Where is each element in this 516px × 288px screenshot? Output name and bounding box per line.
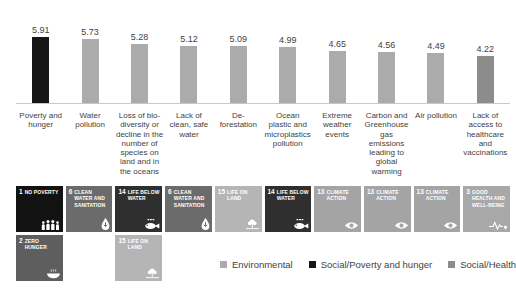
badge-head: 13CLIMATE ACTION: [417, 189, 459, 202]
badge-title: LIFE ON LAND: [227, 189, 259, 202]
badge-head: 3GOOD HEALTH AND WELL-BEING: [466, 189, 508, 209]
water-drop-icon: [101, 218, 110, 230]
badge-head: 13CLIMATE ACTION: [367, 189, 409, 202]
bar-value-label: 5.28: [131, 32, 149, 42]
bar-chart: 5.91 5.73 5.28 5.12 5.09 4.99 4.65 4.56 …: [16, 0, 510, 104]
tree-icon: [245, 219, 260, 230]
fish-icon: [292, 219, 309, 230]
bar-value-label: 4.22: [477, 44, 495, 54]
badge-number: 3: [466, 189, 470, 209]
badge-title: CLEAN WATER AND SANITATION: [74, 189, 110, 209]
bar-column: 4.65: [312, 39, 361, 103]
legend-label: Social/Poverty and hunger: [321, 259, 432, 270]
badge-title: ZERO HUNGER: [25, 238, 61, 251]
sdg-badge-life-on-land: 15LIFE ON LAND: [215, 186, 262, 232]
bar-value-label: 5.12: [180, 34, 198, 44]
legend-item-environmental: Environmental: [220, 259, 293, 270]
badge-head: 14LIFE BELOW WATER: [268, 189, 310, 202]
bar-value-label: 4.65: [328, 39, 346, 49]
badge-number: 6: [69, 189, 73, 209]
bar: [329, 51, 346, 103]
bar: [230, 46, 247, 103]
badge-number: 13: [367, 189, 374, 202]
eye-globe-icon: [394, 221, 409, 230]
chart-area: 5.91 5.73 5.28 5.12 5.09 4.99 4.65 4.56 …: [16, 0, 510, 179]
badge-number: 15: [118, 238, 125, 251]
eye-globe-icon: [443, 221, 458, 230]
badge-head: 6CLEAN WATER AND SANITATION: [69, 189, 111, 209]
legend-swatch-environmental: [220, 261, 227, 268]
survey-bar-chart-figure: 5.91 5.73 5.28 5.12 5.09 4.99 4.65 4.56 …: [0, 0, 516, 288]
badge-number: 1: [19, 189, 23, 196]
bar-value-label: 4.56: [378, 40, 396, 50]
badge-number: 13: [417, 189, 424, 202]
badge-title: LIFE BELOW WATER: [128, 189, 160, 202]
sdg-badge-climate-action: 13CLIMATE ACTION: [314, 186, 361, 232]
tree-icon: [145, 268, 160, 279]
bar-value-label: 5.73: [81, 27, 99, 37]
category-label: Poverty and hunger: [16, 111, 65, 179]
legend-swatch-social-poverty: [309, 261, 316, 268]
badge-head: 6CLEAN WATER AND SANITATION: [168, 189, 210, 209]
badge-title: NO POVERTY: [25, 189, 59, 196]
bar-value-label: 4.99: [279, 35, 297, 45]
category-label: Water pollution: [65, 111, 114, 179]
badge-title: LIFE BELOW WATER: [277, 189, 309, 202]
badge-number: 13: [317, 189, 324, 202]
bar-column: 4.56: [362, 40, 411, 103]
bar-column: 5.73: [65, 27, 114, 103]
badge-head: 15LIFE ON LAND: [118, 238, 160, 251]
badge-head: 15LIFE ON LAND: [218, 189, 260, 202]
sdg-badge-life-below-water: 14LIFE BELOW WATER: [265, 186, 312, 232]
legend-label: Environmental: [232, 259, 293, 270]
bar: [180, 46, 197, 103]
x-axis-category-labels: Poverty and hunger Water pollution Loss …: [16, 111, 510, 179]
badge-head: 13CLIMATE ACTION: [317, 189, 359, 202]
bar: [82, 39, 99, 103]
badge-number: 15: [218, 189, 225, 202]
badge-number: 14: [118, 189, 125, 202]
category-label: Ocean plastic and microplastics pollutio…: [263, 111, 312, 179]
bar: [477, 56, 494, 103]
category-label: Extreme weather events: [312, 111, 361, 179]
sdg-badge-climate-action: 13CLIMATE ACTION: [364, 186, 411, 232]
sdg-badge-good-health: 3GOOD HEALTH AND WELL-BEING: [463, 186, 510, 232]
sdg-badge-clean-water: 6CLEAN WATER AND SANITATION: [66, 186, 113, 232]
legend-label: Social/Health: [460, 259, 516, 270]
bar-column: 4.99: [263, 35, 312, 103]
category-label: Carbon and Greenhouse gas emissions lead…: [362, 111, 411, 179]
chart-legend: Environmental Social/Poverty and hunger …: [220, 259, 516, 270]
bar-column: 5.91: [16, 25, 65, 103]
bar: [378, 52, 395, 103]
badge-title: CLEAN WATER AND SANITATION: [174, 189, 210, 209]
bar-column: 5.28: [115, 32, 164, 103]
bar: [279, 47, 296, 103]
legend-item-social-health: Social/Health: [448, 259, 516, 270]
badge-number: 6: [168, 189, 172, 209]
legend-item-social-poverty: Social/Poverty and hunger: [309, 259, 432, 270]
badge-title: CLIMATE ACTION: [326, 189, 358, 202]
bar: [32, 37, 49, 103]
badge-head: 2ZERO HUNGER: [19, 238, 61, 251]
bar: [131, 44, 148, 103]
sdg-badge-clean-water: 6CLEAN WATER AND SANITATION: [165, 186, 212, 232]
people-icon: [41, 220, 61, 230]
heartbeat-icon: [489, 221, 508, 230]
bar-column: 5.12: [164, 34, 213, 103]
category-label: Loss of bio-diversity or decline in the …: [115, 111, 164, 179]
badge-head: 14LIFE BELOW WATER: [118, 189, 160, 202]
bar-value-label: 5.09: [230, 34, 248, 44]
badge-title: CLIMATE ACTION: [376, 189, 408, 202]
bar-column: 4.49: [411, 41, 460, 103]
fish-icon: [143, 219, 160, 230]
sdg-badge-no-poverty: 1NO POVERTY: [16, 186, 63, 232]
bar-value-label: 4.49: [427, 41, 445, 51]
sdg-badge-climate-action: 13CLIMATE ACTION: [414, 186, 461, 232]
badge-number: 14: [268, 189, 275, 202]
bar: [427, 53, 444, 103]
bar-value-label: 5.91: [32, 25, 50, 35]
badge-number: 2: [19, 238, 23, 251]
water-drop-icon: [201, 218, 210, 230]
badge-head: 1NO POVERTY: [19, 189, 61, 196]
category-label: Lack of clean, safe water: [164, 111, 213, 179]
